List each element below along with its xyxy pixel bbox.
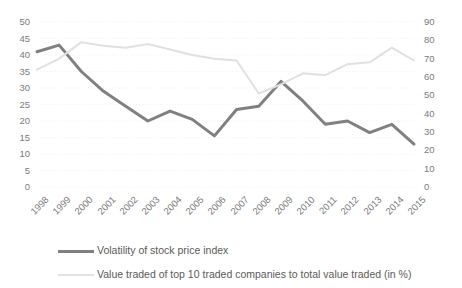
legend-item-volatility: Volatility of stock price index	[0, 238, 462, 262]
legend-swatch-line-icon	[58, 269, 94, 279]
legend-label-volatility: Volatility of stock price index	[97, 244, 228, 256]
legend-swatch-line-icon	[58, 245, 94, 255]
gridlines	[37, 22, 414, 187]
chart-legend: Volatility of stock price index Value tr…	[0, 238, 462, 286]
series-lines	[37, 42, 414, 144]
legend-item-value-traded: Value traded of top 10 traded companies …	[0, 262, 462, 286]
chart-container: 05101520253035404550 0102030405060708090…	[0, 0, 462, 288]
legend-label-value-traded: Value traded of top 10 traded companies …	[97, 268, 411, 280]
series-line-value-traded	[37, 42, 414, 93]
